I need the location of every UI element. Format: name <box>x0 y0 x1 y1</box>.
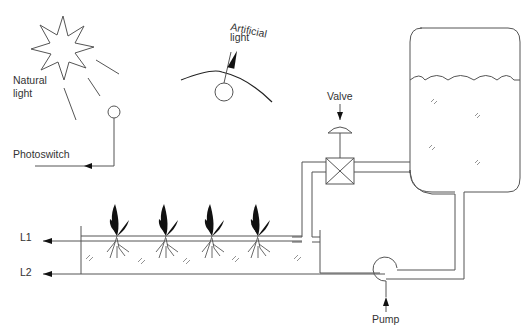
piping <box>292 162 464 279</box>
pump-label: Pump <box>372 313 400 325</box>
level-l1-label: L1 <box>20 231 32 243</box>
valve-icon[interactable] <box>326 104 354 184</box>
sun-icon <box>31 16 119 120</box>
level-l1-arrow-icon <box>43 238 52 244</box>
valve-label: Valve <box>327 90 353 102</box>
pump-icon[interactable] <box>373 257 397 312</box>
tank-icon <box>410 28 520 192</box>
artificial-light-label-2: light <box>230 31 249 43</box>
photoswitch-label: Photoswitch <box>13 148 70 160</box>
level-l2-label: L2 <box>20 266 32 278</box>
natural-light-label: Natural <box>13 74 47 86</box>
natural-light-label-2: light <box>13 87 32 99</box>
hydroponic-diagram: Natural light Photoswitch Artificial lig… <box>0 0 531 328</box>
plant-3-icon <box>202 204 224 258</box>
level-l2-arrow-icon <box>43 271 52 277</box>
plant-1-icon <box>107 204 129 258</box>
plant-4-icon <box>248 204 270 258</box>
lamp-icon <box>181 50 272 102</box>
plant-2-icon <box>156 204 178 258</box>
